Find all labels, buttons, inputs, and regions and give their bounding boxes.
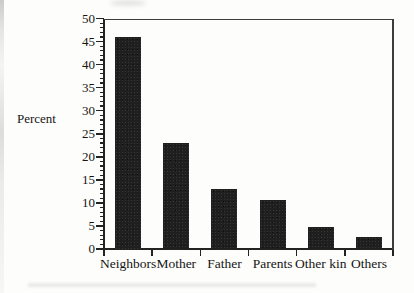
frame-right-line <box>392 19 394 250</box>
bar-chart: Percent 05101520253035404550NeighborsMot… <box>0 0 414 293</box>
y-minor-tick <box>100 55 104 56</box>
bar-parents <box>260 200 286 249</box>
y-tick-label: 50 <box>61 11 95 27</box>
y-minor-tick <box>100 32 104 33</box>
y-minor-tick <box>100 221 104 222</box>
frame-top-line <box>104 19 393 21</box>
y-minor-tick <box>100 170 104 171</box>
y-minor-tick <box>100 138 104 139</box>
y-minor-tick <box>100 152 104 153</box>
y-minor-tick <box>100 235 104 236</box>
y-major-tick <box>96 18 104 20</box>
y-major-tick <box>96 110 104 112</box>
y-minor-tick <box>100 59 104 60</box>
y-minor-tick <box>100 92 104 93</box>
y-tick-label: 5 <box>61 218 95 234</box>
scan-artifact-bottom-smudge <box>28 283 316 287</box>
y-minor-tick <box>100 129 104 130</box>
y-axis-title: Percent <box>17 111 56 127</box>
y-minor-tick <box>100 115 104 116</box>
y-minor-tick <box>100 23 104 24</box>
scan-artifact-top-smudge <box>110 0 146 6</box>
y-major-tick <box>96 202 104 204</box>
y-major-tick <box>96 87 104 89</box>
y-minor-tick <box>100 96 104 97</box>
y-minor-tick <box>100 198 104 199</box>
y-minor-tick <box>100 147 104 148</box>
y-tick-label: 25 <box>61 126 95 142</box>
y-tick-label: 30 <box>61 103 95 119</box>
y-minor-tick <box>100 230 104 231</box>
y-minor-tick <box>100 184 104 185</box>
y-minor-tick <box>100 244 104 245</box>
y-tick-label: 35 <box>61 80 95 96</box>
y-minor-tick <box>100 165 104 166</box>
y-minor-tick <box>100 124 104 125</box>
y-major-tick <box>96 133 104 135</box>
y-tick-label: 40 <box>61 57 95 73</box>
bar-other-kin <box>308 227 334 249</box>
bar-others <box>356 237 382 249</box>
y-minor-tick <box>100 73 104 74</box>
y-tick-label: 10 <box>61 195 95 211</box>
x-category-label-others: Others <box>324 256 414 272</box>
y-minor-tick <box>100 216 104 217</box>
y-minor-tick <box>100 27 104 28</box>
y-minor-tick <box>100 78 104 79</box>
y-minor-tick <box>100 161 104 162</box>
y-major-tick <box>96 179 104 181</box>
bar-father <box>211 189 237 249</box>
y-minor-tick <box>100 36 104 37</box>
y-major-tick <box>96 41 104 43</box>
y-minor-tick <box>100 188 104 189</box>
y-major-tick <box>96 64 104 66</box>
y-minor-tick <box>100 193 104 194</box>
y-minor-tick <box>100 46 104 47</box>
y-tick-label: 0 <box>61 241 95 257</box>
y-minor-tick <box>100 82 104 83</box>
y-minor-tick <box>100 119 104 120</box>
y-minor-tick <box>100 207 104 208</box>
bar-neighbors <box>115 37 141 249</box>
y-tick-label: 20 <box>61 149 95 165</box>
y-minor-tick <box>100 50 104 51</box>
y-tick-label: 15 <box>61 172 95 188</box>
y-minor-tick <box>100 105 104 106</box>
y-minor-tick <box>100 69 104 70</box>
y-minor-tick <box>100 239 104 240</box>
y-major-tick <box>96 225 104 227</box>
y-tick-label: 45 <box>61 34 95 50</box>
y-minor-tick <box>100 142 104 143</box>
bar-mother <box>163 143 189 249</box>
y-minor-tick <box>100 212 104 213</box>
y-minor-tick <box>100 175 104 176</box>
y-major-tick <box>96 156 104 158</box>
scan-artifact-left-edge <box>0 0 4 293</box>
y-minor-tick <box>100 101 104 102</box>
